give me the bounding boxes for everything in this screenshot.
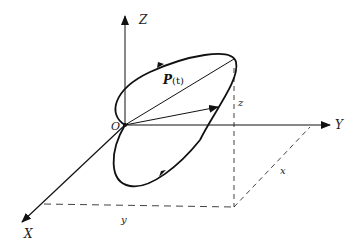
- trajectory-lower-loop: [114, 125, 200, 186]
- x-projection-dashed: [234, 127, 310, 207]
- trajectory-upper-loop: [115, 54, 236, 140]
- x-component-label: x: [280, 165, 286, 176]
- origin-point: [123, 123, 127, 127]
- y-projection-dashed: [44, 204, 234, 207]
- z-component-label: z: [237, 97, 244, 108]
- vector-label-arg: (t): [172, 75, 184, 86]
- y-component-label: y: [120, 214, 127, 225]
- trajectory-diagram: Z Y X O P(t) z x y: [0, 0, 356, 248]
- y-axis-label: Y: [335, 118, 344, 132]
- x-axis-label: X: [23, 227, 33, 241]
- vector-label: P(t): [162, 73, 184, 87]
- z-axis-label: Z: [138, 13, 148, 27]
- x-axis: [22, 125, 125, 222]
- origin-label: O: [111, 120, 120, 133]
- position-vector-p: [125, 59, 234, 125]
